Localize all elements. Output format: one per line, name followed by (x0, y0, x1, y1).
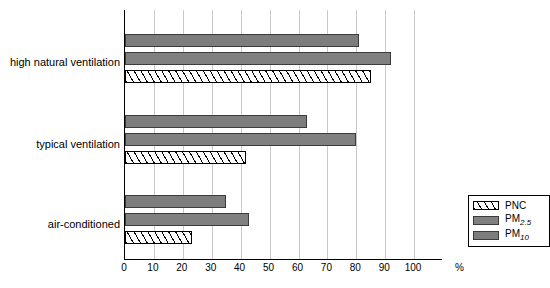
category-label-typical-ventilation: typical ventilation (0, 138, 120, 150)
xtick-50: 50 (257, 262, 281, 273)
legend-swatch-pm10-icon (473, 231, 499, 240)
legend-item-pm10: PM10 (473, 229, 545, 242)
xtick-90: 90 (372, 262, 396, 273)
legend-label-pm10: PM10 (505, 229, 529, 243)
plot-area: PNC PM2.5 PM10 (124, 10, 442, 260)
xtick-30: 30 (199, 262, 223, 273)
legend-item-pnc: PNC (473, 199, 545, 212)
category-label-high-natural-ventilation: high natural ventilation (0, 56, 120, 68)
x-axis-unit-label: % (455, 262, 464, 273)
bar-high-natural-ventilation-pm10 (125, 34, 359, 47)
xtick-0: 0 (112, 262, 136, 273)
gridline-90 (385, 10, 386, 259)
xtick-100: 100 (401, 262, 425, 273)
legend-swatch-pm25-icon (473, 216, 499, 225)
legend-swatch-pnc-icon (473, 201, 499, 210)
bar-high-natural-ventilation-pnc (125, 70, 371, 83)
xtick-80: 80 (343, 262, 367, 273)
legend-label-pnc: PNC (505, 201, 526, 211)
bar-air-conditioned-pnc (125, 231, 192, 244)
bar-typical-ventilation-pm25 (125, 133, 356, 146)
gridline-80 (356, 10, 357, 259)
bar-typical-ventilation-pm10 (125, 115, 307, 128)
bar-typical-ventilation-pnc (125, 151, 246, 164)
xtick-70: 70 (314, 262, 338, 273)
gridline-100 (414, 10, 415, 259)
xtick-10: 10 (141, 262, 165, 273)
bar-air-conditioned-pm10 (125, 195, 226, 208)
legend-label-pm25: PM2.5 (505, 214, 531, 228)
xtick-20: 20 (170, 262, 194, 273)
xtick-40: 40 (228, 262, 252, 273)
category-label-air-conditioned: air-conditioned (0, 218, 120, 230)
xtick-60: 60 (286, 262, 310, 273)
bar-air-conditioned-pm25 (125, 213, 249, 226)
legend: PNC PM2.5 PM10 (468, 195, 550, 247)
legend-item-pm25: PM2.5 (473, 214, 545, 227)
bar-high-natural-ventilation-pm25 (125, 52, 391, 65)
